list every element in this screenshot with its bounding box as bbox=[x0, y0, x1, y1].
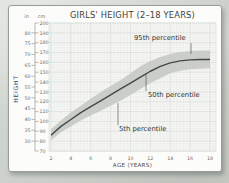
svg-text:190: 190 bbox=[40, 31, 49, 36]
svg-text:14: 14 bbox=[167, 156, 173, 161]
svg-text:70: 70 bbox=[40, 149, 46, 154]
svg-text:50: 50 bbox=[24, 96, 30, 101]
growth-chart-card: GIRLS' HEIGHT (2–18 YEARS) in cm HEIGHT … bbox=[8, 5, 222, 172]
svg-text:180: 180 bbox=[40, 40, 49, 45]
svg-text:70: 70 bbox=[24, 52, 30, 57]
y-axis-ruler bbox=[32, 23, 39, 151]
svg-text:120: 120 bbox=[40, 99, 49, 104]
svg-text:60: 60 bbox=[24, 74, 30, 79]
chart-canvas: 7080901001101201301401501601701801902003… bbox=[9, 6, 223, 173]
annotation-50th-percentile: 50th percentile bbox=[148, 91, 200, 99]
svg-text:90: 90 bbox=[40, 129, 46, 134]
svg-text:160: 160 bbox=[40, 60, 49, 65]
svg-text:80: 80 bbox=[24, 31, 30, 36]
annotation-95th-percentile: 95th percentile bbox=[134, 34, 186, 42]
svg-text:16: 16 bbox=[187, 156, 193, 161]
svg-text:45: 45 bbox=[24, 106, 30, 111]
svg-text:40: 40 bbox=[24, 117, 30, 122]
svg-text:12: 12 bbox=[147, 156, 153, 161]
svg-text:150: 150 bbox=[40, 70, 49, 75]
svg-text:140: 140 bbox=[40, 80, 49, 85]
svg-text:8: 8 bbox=[109, 156, 112, 161]
svg-text:110: 110 bbox=[40, 109, 49, 114]
svg-text:65: 65 bbox=[24, 63, 30, 68]
svg-text:4: 4 bbox=[69, 156, 72, 161]
svg-text:55: 55 bbox=[24, 85, 30, 90]
svg-text:80: 80 bbox=[40, 139, 46, 144]
svg-text:10: 10 bbox=[127, 156, 133, 161]
svg-text:6: 6 bbox=[89, 156, 92, 161]
svg-text:130: 130 bbox=[40, 90, 49, 95]
svg-text:75: 75 bbox=[24, 41, 30, 46]
svg-text:30: 30 bbox=[24, 139, 30, 144]
svg-text:2: 2 bbox=[49, 156, 52, 161]
svg-text:18: 18 bbox=[207, 156, 213, 161]
svg-text:200: 200 bbox=[40, 21, 49, 26]
svg-text:35: 35 bbox=[24, 128, 30, 133]
annotation-5th-percentile: 5th percentile bbox=[119, 125, 166, 133]
svg-text:170: 170 bbox=[40, 50, 49, 55]
page-background: GIRLS' HEIGHT (2–18 YEARS) in cm HEIGHT … bbox=[0, 0, 229, 183]
x-axis-title: AGE (YEARS) bbox=[49, 162, 216, 168]
svg-text:100: 100 bbox=[40, 119, 49, 124]
